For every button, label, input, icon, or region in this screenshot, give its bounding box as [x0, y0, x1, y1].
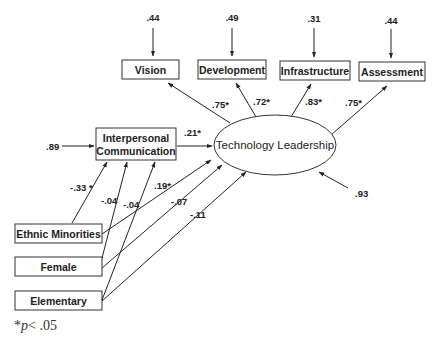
predictor-label: Female [40, 261, 76, 273]
path-coef-female-mediator: -.04 [101, 195, 118, 206]
loading-vision: .75* [212, 99, 229, 110]
predictor-female: Female [15, 257, 102, 276]
mediator-label-line1: Interpersonal [103, 132, 170, 144]
note-star: * [14, 318, 21, 333]
indicator-assessment: Assessment [359, 62, 425, 81]
latent-technology-leadership: Technology Leadership [214, 115, 336, 175]
indicator-development: Development [198, 60, 266, 79]
loading-development: .72* [253, 96, 270, 107]
path-coef-ethnic-mediator: -.33 * [70, 182, 93, 193]
path-elementary-to-central [102, 172, 246, 301]
predictor-ethnic-minorities: Ethnic Minorities [15, 224, 102, 243]
indicator-vision: Vision [122, 60, 179, 79]
indicator-label: Assessment [361, 66, 423, 78]
residual-infrastructure: .31 [307, 13, 321, 24]
mediator-interpersonal-communication: Interpersonal Communication [96, 128, 176, 160]
indicator-label: Vision [135, 64, 166, 76]
significance-note: *p< .05 [14, 318, 57, 334]
path-coef-female-central: -.07 [171, 196, 187, 207]
path-diagram: Vision Development Infrastructure Assess… [0, 0, 434, 349]
predictor-elementary: Elementary [15, 291, 102, 310]
residual-development: .49 [225, 12, 238, 23]
indicator-label: Infrastructure [281, 65, 349, 77]
residual-central: .93 [355, 188, 368, 199]
indicator-label: Development [199, 64, 265, 76]
path-elementary-to-mediator [102, 162, 155, 300]
note-p: p [21, 318, 28, 333]
loading-infrastructure: .83* [305, 96, 322, 107]
mediator-label-line2: Communication [96, 145, 175, 157]
path-coef-ethnic-central: .19* [154, 180, 171, 191]
predictor-label: Elementary [30, 295, 87, 307]
residual-vision: .44 [146, 12, 160, 23]
loading-arrow-assessment [331, 86, 387, 135]
predictor-label: Ethnic Minorities [16, 228, 101, 240]
latent-label: Technology Leadership [216, 139, 334, 151]
residual-assessment: .44 [384, 15, 398, 26]
note-threshold: < .05 [28, 318, 57, 333]
path-coef-elementary-mediator: -.04 [123, 199, 140, 210]
indicator-infrastructure: Infrastructure [280, 61, 350, 80]
residual-mediator: .89 [46, 141, 59, 152]
loading-assessment: .75* [345, 97, 362, 108]
path-coef-elementary-central: -.11 [190, 209, 207, 220]
residual-arrow-central [319, 172, 348, 188]
path-coef-mediator-central: .21* [184, 127, 201, 138]
